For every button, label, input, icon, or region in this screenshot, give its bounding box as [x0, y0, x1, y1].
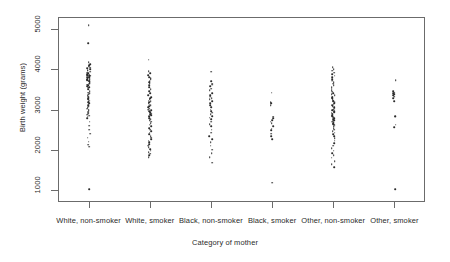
data-point [148, 59, 150, 61]
data-point [272, 119, 274, 121]
data-point [331, 157, 333, 159]
y-axis-tick [51, 69, 58, 70]
data-point [210, 126, 212, 128]
data-point [331, 93, 333, 95]
data-point [270, 133, 272, 135]
data-point [150, 150, 152, 152]
x-axis-tick-label: Black, smoker [248, 216, 296, 225]
data-point [272, 126, 274, 128]
data-point [210, 142, 212, 144]
data-point [150, 138, 152, 140]
data-point [212, 115, 214, 117]
data-point [211, 97, 213, 99]
data-point [393, 101, 395, 103]
data-point [150, 130, 152, 132]
y-axis-tick [51, 110, 58, 111]
data-point [88, 188, 90, 190]
data-point [331, 73, 333, 75]
x-axis-tick-label: White, non-smoker [56, 216, 121, 225]
data-point [334, 75, 336, 77]
data-point [88, 141, 90, 143]
data-point [89, 90, 91, 92]
data-point [393, 97, 395, 99]
data-point [333, 145, 335, 147]
data-point [88, 146, 90, 148]
data-point [270, 135, 272, 137]
data-point [334, 140, 336, 142]
data-point [210, 145, 212, 147]
x-axis-tick [211, 202, 212, 208]
data-point [150, 89, 152, 91]
y-axis-tick [51, 150, 58, 151]
x-axis-tick [150, 202, 151, 208]
data-point [150, 101, 152, 103]
data-point [148, 156, 150, 158]
data-point [334, 95, 336, 97]
data-point [395, 124, 397, 126]
x-axis-tick-label: Other, smoker [370, 216, 418, 225]
data-point [331, 163, 333, 165]
data-point [334, 160, 336, 162]
data-point [333, 85, 335, 87]
data-point [334, 142, 336, 144]
data-point [331, 152, 333, 154]
x-axis-tick-label: Other, non-smoker [301, 216, 365, 225]
data-point [211, 121, 213, 123]
data-point [88, 125, 90, 127]
data-point [211, 162, 213, 164]
data-point [333, 68, 335, 70]
data-point [271, 122, 273, 124]
data-point [209, 123, 211, 125]
data-point [334, 167, 336, 169]
data-point [209, 89, 211, 91]
data-point [211, 93, 213, 95]
y-axis-tick-label: 1000 [33, 176, 42, 194]
data-point [209, 156, 211, 158]
data-point [334, 129, 336, 131]
data-point [272, 138, 274, 140]
data-point [271, 92, 273, 94]
y-axis-tick-label: 5000 [33, 15, 42, 33]
y-axis-tick [51, 190, 58, 191]
data-point [211, 138, 213, 140]
data-point [334, 138, 336, 140]
data-point [210, 132, 212, 134]
data-point [89, 115, 91, 117]
data-point [88, 129, 90, 131]
data-point [211, 129, 213, 131]
data-point [87, 137, 89, 139]
data-point [393, 126, 395, 128]
data-point [148, 95, 150, 97]
y-axis-title: Birth weight (grams) [18, 63, 30, 132]
data-point [333, 150, 335, 152]
data-point [211, 101, 213, 103]
x-axis-tick [333, 202, 334, 208]
data-point [211, 149, 213, 151]
data-point [211, 88, 213, 90]
x-axis-tick-label: Black, non-smoker [179, 216, 243, 225]
data-point [211, 81, 213, 83]
data-point [333, 155, 335, 157]
data-point [270, 130, 272, 132]
data-point [270, 105, 272, 107]
data-point [149, 73, 151, 75]
data-point [270, 102, 272, 104]
x-axis-tick [272, 202, 273, 208]
data-point [87, 42, 89, 44]
data-point [88, 24, 90, 26]
y-axis-tick-label: 3000 [33, 96, 42, 114]
x-axis-tick [89, 202, 90, 208]
data-point [150, 126, 152, 128]
plot-area [58, 17, 425, 202]
data-point [395, 188, 397, 190]
data-point [89, 68, 91, 70]
x-axis-tick-label: White, smoker [125, 216, 174, 225]
data-point [209, 135, 211, 137]
data-point [89, 71, 91, 73]
x-axis-tick [394, 202, 395, 208]
data-point [87, 118, 89, 120]
data-point [395, 116, 397, 118]
data-point [331, 147, 333, 149]
data-point [149, 93, 151, 95]
chart-figure: 10002000300040005000 Birth weight (grams… [0, 0, 450, 262]
